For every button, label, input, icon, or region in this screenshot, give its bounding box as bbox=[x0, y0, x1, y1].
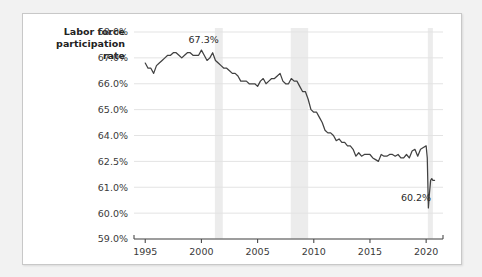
y-axis-tick-label: 60.0% bbox=[98, 208, 128, 219]
data-annotation-label: 67.3% bbox=[189, 34, 219, 45]
shaded-band-recession-2001 bbox=[215, 28, 223, 239]
x-axis-tick-label: 2020 bbox=[414, 246, 438, 257]
x-axis-tick-label: 2005 bbox=[246, 246, 270, 257]
x-axis-tick-label: 2010 bbox=[302, 246, 326, 257]
line-chart: 68.0%67.0%66.0%65.0%64.0%62.5%61.0%60.0%… bbox=[23, 14, 463, 266]
y-axis-tick-label: 68.0% bbox=[98, 26, 128, 37]
y-axis-tick-label: 62.5% bbox=[98, 156, 128, 167]
chart-card: Labor force participation rate 68.0%67.0… bbox=[22, 13, 462, 265]
x-axis-tick-label: 2000 bbox=[189, 246, 213, 257]
x-axis-tick-label: 2015 bbox=[358, 246, 382, 257]
x-axis-tick-label: 1995 bbox=[133, 246, 157, 257]
y-axis-tick-label: 67.0% bbox=[98, 52, 128, 63]
series-line-labor-force-participation bbox=[145, 50, 434, 208]
data-annotation-label: 60.2% bbox=[401, 192, 431, 203]
shaded-band-recession-2008 bbox=[291, 28, 308, 239]
y-axis-tick-label: 65.0% bbox=[98, 104, 128, 115]
y-axis-tick-label: 66.0% bbox=[98, 78, 128, 89]
y-axis-tick-label: 64.0% bbox=[98, 130, 128, 141]
y-axis-tick-label: 59.0% bbox=[98, 233, 128, 244]
y-axis-tick-label: 61.0% bbox=[98, 182, 128, 193]
chart-plot-area: Labor force participation rate 68.0%67.0… bbox=[23, 14, 461, 264]
